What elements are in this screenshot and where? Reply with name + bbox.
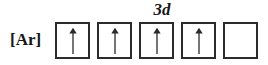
orbital-box xyxy=(55,22,90,59)
orbital-box xyxy=(181,22,216,59)
spin-up-arrow-icon xyxy=(109,27,120,55)
orbital-box-row xyxy=(55,22,258,59)
orbital-box xyxy=(97,22,132,59)
orbital-box xyxy=(139,22,174,59)
orbital-box-empty xyxy=(223,22,258,59)
orbital-diagram: [Ar] 3d xyxy=(0,0,268,65)
spin-up-arrow-icon xyxy=(151,27,162,55)
spin-up-arrow-icon xyxy=(67,27,78,55)
spin-up-arrow-icon xyxy=(193,27,204,55)
noble-gas-core-label: [Ar] xyxy=(10,31,41,48)
subshell-label-3d: 3d xyxy=(154,1,171,18)
